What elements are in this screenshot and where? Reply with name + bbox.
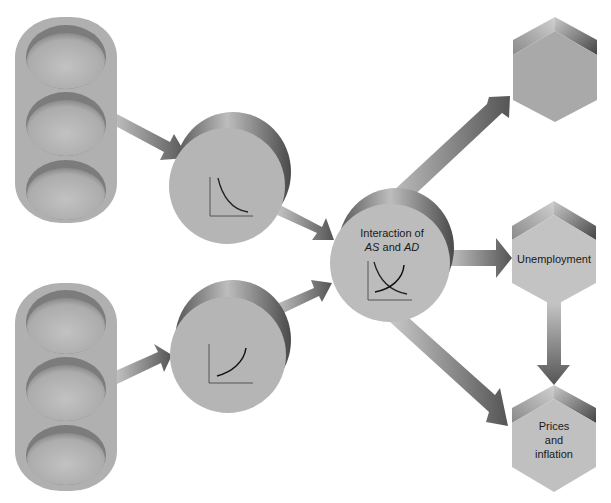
arrow-interaction-to-prices <box>390 310 508 426</box>
arrow-input-top-to-ad <box>108 112 188 160</box>
ad-abbrev: AD <box>404 241 419 253</box>
and-word: and <box>379 241 403 253</box>
interaction-node <box>330 188 454 322</box>
input-group-top <box>15 17 117 223</box>
unemployment-label: Unemployment <box>512 252 596 266</box>
input-ellipse-2 <box>26 92 106 156</box>
as-node <box>170 280 291 413</box>
interaction-label-line1: Interaction of <box>350 226 434 240</box>
ad-node <box>169 112 291 244</box>
prices-label-line1: Prices <box>512 419 596 433</box>
input-ellipse-5 <box>26 357 106 421</box>
as-abbrev: AS <box>365 241 380 253</box>
arrow-unemployment-to-prices <box>537 300 570 385</box>
input-ellipse-3 <box>26 160 106 220</box>
input-ellipse-4 <box>26 290 106 354</box>
arrow-input-bottom-to-as <box>113 344 172 384</box>
input-ellipse-1 <box>26 25 106 89</box>
prices-inflation-label: Prices and inflation <box>512 419 596 461</box>
input-group-bottom <box>15 283 117 491</box>
output-top-hexagon <box>513 17 597 122</box>
arrow-ad-to-interaction <box>275 205 334 240</box>
prices-label-line2: and <box>512 433 596 447</box>
prices-label-line3: inflation <box>512 447 596 461</box>
interaction-label: Interaction of AS and AD <box>350 226 434 254</box>
input-ellipse-6 <box>26 425 106 485</box>
arrow-interaction-to-unemployment <box>445 238 512 278</box>
interaction-label-line2: AS and AD <box>350 240 434 254</box>
